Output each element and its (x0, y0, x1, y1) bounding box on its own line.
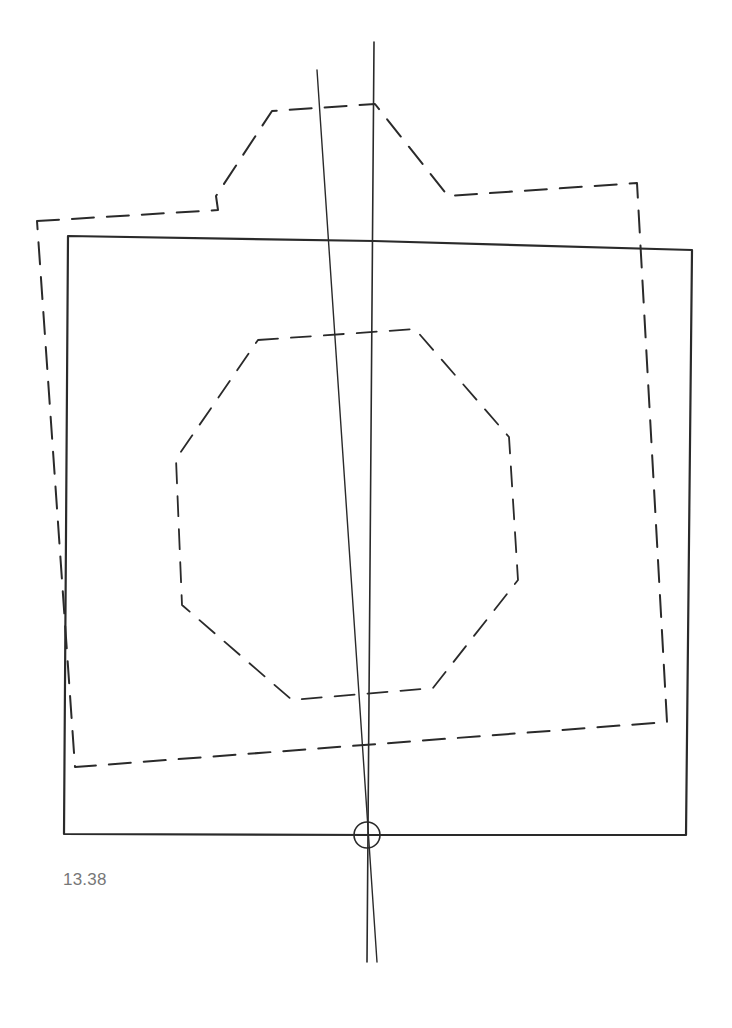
figure-number: 13.38 (63, 870, 107, 890)
dashed-rotated-outline (37, 104, 667, 767)
technical-diagram (0, 0, 732, 1028)
solid-square-outline (64, 236, 692, 835)
